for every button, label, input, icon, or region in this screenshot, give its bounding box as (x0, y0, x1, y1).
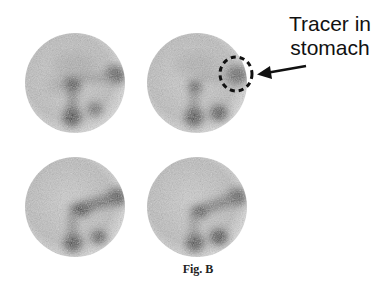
figure-caption: Fig. B (0, 262, 382, 277)
scintigraphy-figure: Tracer in stomach Fig. B (0, 0, 382, 292)
annotation-line-2: stomach (278, 36, 382, 60)
arrow-icon (257, 66, 306, 79)
dashed-circle-marker (220, 57, 252, 91)
annotation-line-1: Tracer in (278, 12, 382, 36)
annotation-label: Tracer in stomach (278, 12, 382, 60)
